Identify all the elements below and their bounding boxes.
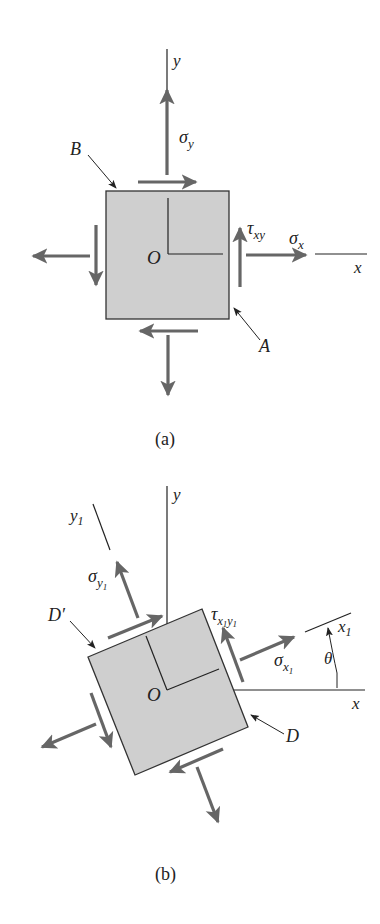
y1-axis-line [93,504,110,550]
sigma-x-label: σx [289,228,304,252]
caption-a: (a) [155,429,175,450]
point-a-pointer [234,308,260,340]
point-a-label: A [258,336,271,356]
tau-x1y1-label: τx1y1 [211,604,237,629]
point-d-prime-label: D′ [47,605,66,625]
x-axis-label-b: x [351,694,360,713]
point-d-label: D [285,726,299,746]
sigma-y1-label: σy1 [88,566,107,592]
sigma-y-label: σy [179,127,194,151]
point-b-pointer [88,155,116,188]
stress-element-diagram: y x O σy σx τxy B A (a) [0,0,380,924]
sigma-x1-left-arrow [42,724,96,747]
y-axis-label-b: y [171,485,181,504]
sigma-y1-bottom-arrow [197,767,218,822]
origin-label-b: O [147,684,161,705]
caption-b: (b) [155,864,176,885]
y-axis-label: y [171,51,181,70]
figure-a: y x O σy σx τxy B A (a) [33,49,367,450]
tau-xy-label: τxy [247,218,265,242]
y1-axis-label: y1 [68,506,84,528]
point-d-prime-pointer [70,621,95,648]
x1-axis-label: x1 [337,617,352,639]
point-b-label: B [70,139,81,159]
origin-label: O [147,247,161,268]
x-axis-label: x [353,258,362,277]
figure-b: y x O y1 x1 θ σy1 σx1 τx1y1 [42,485,365,885]
theta-label: θ [324,649,332,668]
sigma-y1-arrow [117,562,138,618]
sigma-x1-label: σx1 [274,650,293,676]
sigma-x1-arrow [240,637,294,660]
point-d-pointer [251,715,284,734]
